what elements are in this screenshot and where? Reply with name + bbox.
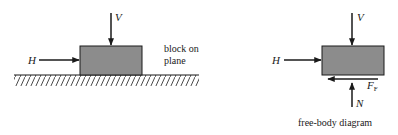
caption-plane: plane <box>164 55 186 66</box>
fbd-vertical-force-label: V <box>357 11 365 23</box>
block-on-plane-diagram: V H block on plane <box>14 11 199 86</box>
friction-force-label: FF <box>366 79 378 93</box>
friction-label-subscript: F <box>374 85 378 93</box>
fbd-caption: free-body diagram <box>298 117 372 128</box>
fbd-horizontal-force-label: H <box>271 54 281 66</box>
vertical-force-label: V <box>115 11 123 23</box>
block <box>80 46 142 75</box>
free-body-diagram: V H FF N free-body diagram <box>271 11 384 128</box>
caption-block-on: block on <box>164 43 199 54</box>
ground-hatching <box>14 75 199 86</box>
fbd-block <box>322 46 384 75</box>
horizontal-force-label: H <box>27 54 37 66</box>
block-on-plane-figure: V H block on plane V H FF N free-body di… <box>0 0 398 135</box>
normal-force-label: N <box>355 97 364 109</box>
